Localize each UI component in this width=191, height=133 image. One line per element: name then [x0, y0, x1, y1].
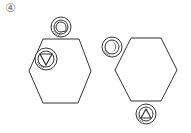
- figure-canvas: [0, 0, 191, 133]
- right-hexagon: [115, 38, 177, 101]
- crescent-badge-icon: [102, 37, 122, 57]
- left-panel: [29, 17, 91, 103]
- down-triangle-badge-icon: [35, 48, 57, 70]
- left-hexagon: [29, 39, 91, 103]
- up-triangle-badge-icon: [136, 104, 156, 124]
- right-panel: [102, 37, 177, 124]
- rounded-d-badge-icon: [51, 17, 71, 37]
